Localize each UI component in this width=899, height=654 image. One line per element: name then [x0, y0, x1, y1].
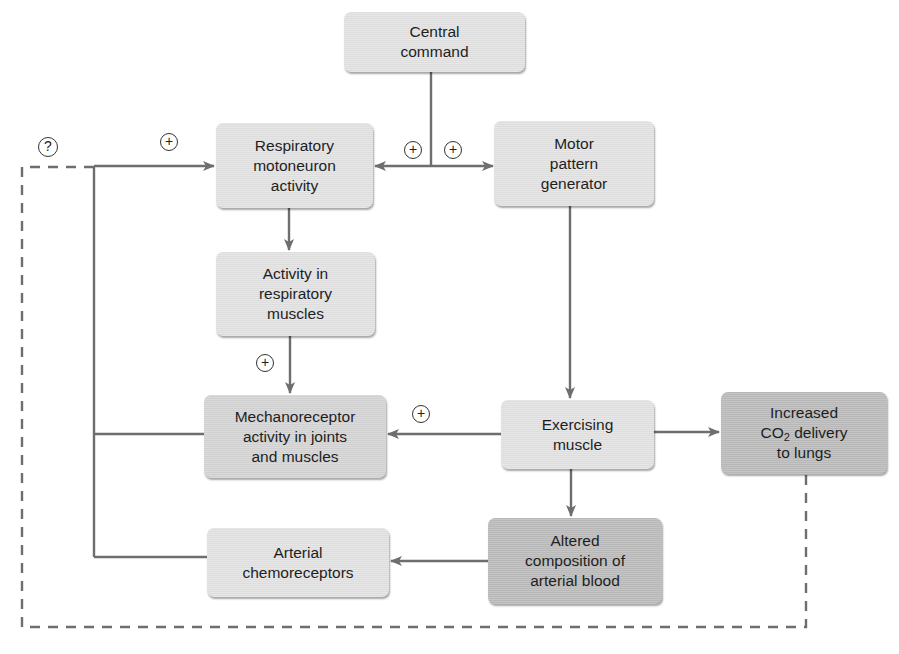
node-arterial-chemoreceptors: Arterial chemoreceptors: [207, 528, 389, 597]
node-motor-pattern-generator: Motor pattern generator: [494, 121, 654, 206]
node-central-command: Central command: [344, 12, 525, 72]
node-exercising-muscle: Exercising muscle: [501, 400, 654, 469]
plus-sign-icon-exercising: +: [412, 405, 430, 423]
connector-layer: [0, 0, 899, 654]
node-altered-arterial-blood: Altered composition of arterial blood: [488, 518, 662, 604]
node-mechanoreceptor-activity: Mechanoreceptor activity in joints and m…: [204, 395, 386, 478]
ventilation-control-diagram: Central command Respiratory motoneuron a…: [0, 0, 899, 654]
node-activity-respiratory-muscles: Activity in respiratory muscles: [216, 252, 375, 336]
plus-sign-icon-central-left: +: [404, 141, 422, 159]
plus-sign-icon-resp-muscles: +: [256, 354, 274, 372]
node-respiratory-motoneuron-activity: Respiratory motoneuron activity: [216, 123, 373, 208]
node-increased-co2-delivery: Increased CO2 delivery to lungs: [721, 392, 887, 474]
plus-sign-icon-feedback: +: [160, 133, 178, 151]
question-sign-icon: ?: [38, 137, 58, 157]
plus-sign-icon-central-right: +: [444, 141, 462, 159]
